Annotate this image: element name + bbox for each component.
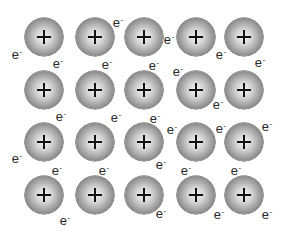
electron-label: e- (216, 45, 226, 61)
electron-charge: - (157, 58, 160, 67)
electron-label: e- (156, 204, 166, 220)
plus-sign-icon (37, 135, 51, 149)
electron-charge: - (224, 47, 227, 56)
positive-ion (225, 176, 263, 214)
plus-sign-icon (189, 188, 203, 202)
electron-charge: - (164, 157, 167, 166)
electron-charge: - (270, 207, 273, 216)
positive-ion (76, 123, 114, 161)
positive-ion (177, 123, 215, 161)
electron-symbol: e (167, 122, 174, 137)
electron-charge: - (121, 15, 124, 24)
electron-symbol: e (262, 207, 269, 222)
positive-ion (76, 176, 114, 214)
electron-label: e- (262, 205, 272, 221)
electron-symbol: e (150, 111, 157, 126)
electron-label: e- (150, 109, 160, 125)
electron-symbol: e (156, 206, 163, 221)
positive-ion (225, 123, 263, 161)
electron-label: e- (156, 155, 166, 171)
electron-symbol: e (214, 207, 221, 222)
positive-ion (25, 123, 63, 161)
positive-ion (225, 71, 263, 109)
electron-symbol: e (111, 110, 118, 125)
electron-label: e- (213, 95, 223, 111)
electron-label: e- (181, 161, 191, 177)
electron-label: e- (262, 117, 272, 133)
electron-charge: - (110, 57, 113, 66)
electron-label: e- (52, 161, 62, 177)
positive-ion (76, 71, 114, 109)
electron-label: e- (12, 149, 22, 165)
electron-label: e- (12, 45, 22, 61)
electron-charge: - (221, 97, 224, 106)
electron-charge: - (239, 163, 242, 172)
electron-label: e- (173, 62, 183, 78)
electron-label: e- (149, 56, 159, 72)
electron-label: e- (255, 53, 265, 69)
electron-charge: - (20, 151, 23, 160)
electron-charge: - (263, 55, 266, 64)
electron-charge: - (175, 122, 178, 131)
plus-sign-icon (137, 83, 151, 97)
electron-symbol: e (60, 213, 67, 228)
plus-sign-icon (137, 188, 151, 202)
plus-sign-icon (237, 135, 251, 149)
electron-label: e- (231, 161, 241, 177)
plus-sign-icon (88, 83, 102, 97)
electron-symbol: e (216, 121, 223, 136)
electron-charge: - (270, 119, 273, 128)
electron-symbol: e (156, 157, 163, 172)
electron-charge: - (158, 111, 161, 120)
plus-sign-icon (189, 30, 203, 44)
positive-ion (125, 18, 163, 56)
plus-sign-icon (189, 135, 203, 149)
plus-sign-icon (189, 83, 203, 97)
electron-symbol: e (149, 58, 156, 73)
electron-label: e- (111, 108, 121, 124)
electron-label: e- (164, 30, 174, 46)
electron-label: e- (214, 205, 224, 221)
plus-sign-icon (137, 135, 151, 149)
electron-label: e- (60, 211, 70, 227)
electron-charge: - (60, 163, 63, 172)
positive-ion (25, 71, 63, 109)
electron-charge: - (172, 32, 175, 41)
electron-symbol: e (231, 163, 238, 178)
electron-charge: - (20, 47, 23, 56)
electron-charge: - (164, 206, 167, 215)
electron-label: e- (99, 161, 109, 177)
electron-symbol: e (213, 97, 220, 112)
electron-symbol: e (113, 15, 120, 30)
plus-sign-icon (37, 30, 51, 44)
electron-symbol: e (53, 56, 60, 71)
positive-ion (25, 176, 63, 214)
electron-label: e- (53, 54, 63, 70)
electron-label: e- (113, 13, 123, 29)
electron-charge: - (64, 109, 67, 118)
electron-symbol: e (262, 119, 269, 134)
electron-charge: - (224, 121, 227, 130)
electron-symbol: e (216, 47, 223, 62)
electron-label: e- (216, 119, 226, 135)
electron-symbol: e (99, 163, 106, 178)
metallic-bonding-diagram: e-e-e-e-e-e-e-e-e-e-e-e-e-e-e-e-e-e-e-e-… (0, 0, 288, 241)
electron-charge: - (222, 207, 225, 216)
electron-charge: - (61, 56, 64, 65)
positive-ion (125, 71, 163, 109)
electron-symbol: e (56, 109, 63, 124)
electron-charge: - (107, 163, 110, 172)
electron-symbol: e (255, 55, 262, 70)
electron-symbol: e (181, 163, 188, 178)
electron-symbol: e (173, 64, 180, 79)
plus-sign-icon (37, 83, 51, 97)
electron-charge: - (119, 110, 122, 119)
electron-label: e- (102, 55, 112, 71)
positive-ion (76, 18, 114, 56)
plus-sign-icon (237, 30, 251, 44)
plus-sign-icon (137, 30, 151, 44)
positive-ion (177, 176, 215, 214)
electron-label: e- (167, 120, 177, 136)
plus-sign-icon (88, 30, 102, 44)
electron-symbol: e (12, 151, 19, 166)
